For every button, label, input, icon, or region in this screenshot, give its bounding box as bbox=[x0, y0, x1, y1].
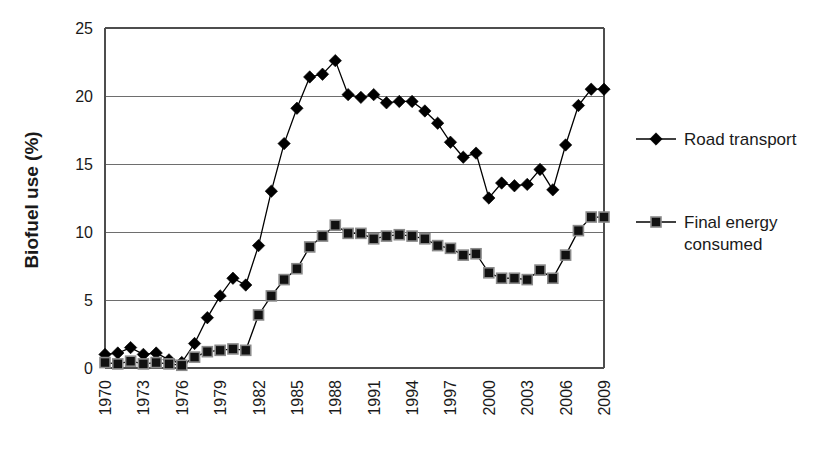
data-point-square bbox=[522, 275, 532, 285]
data-point-square bbox=[190, 352, 200, 362]
data-point-square bbox=[202, 347, 212, 357]
data-point-square bbox=[151, 358, 161, 368]
data-point-square bbox=[356, 228, 366, 238]
data-point-square bbox=[509, 273, 519, 283]
y-tick-label: 5 bbox=[84, 292, 93, 309]
x-tick-label: 1988 bbox=[327, 380, 344, 416]
biofuel-use-line-chart: Biofuel use (%) 0510152025 1970197319761… bbox=[0, 0, 827, 450]
data-point-square bbox=[100, 358, 110, 368]
data-point-square bbox=[497, 273, 507, 283]
legend-label: Road transport bbox=[684, 130, 797, 149]
data-point-square bbox=[369, 234, 379, 244]
y-axis-title: Biofuel use (%) bbox=[21, 131, 42, 268]
data-point-square bbox=[113, 359, 123, 369]
chart-figure: Biofuel use (%) 0510152025 1970197319761… bbox=[0, 0, 827, 450]
x-tick-label: 2009 bbox=[596, 380, 613, 416]
data-point-square bbox=[535, 265, 545, 275]
data-point-square bbox=[164, 359, 174, 369]
data-point-square bbox=[330, 220, 340, 230]
data-point-square bbox=[279, 275, 289, 285]
data-point-square bbox=[471, 249, 481, 259]
data-point-square bbox=[586, 212, 596, 222]
data-point-square bbox=[266, 291, 276, 301]
data-point-square bbox=[394, 230, 404, 240]
data-point-square bbox=[420, 234, 430, 244]
x-tick-label: 2003 bbox=[519, 380, 536, 416]
data-point-square bbox=[484, 268, 494, 278]
data-point-square bbox=[651, 217, 661, 227]
data-point-square bbox=[318, 231, 328, 241]
x-tick-label: 1973 bbox=[135, 380, 152, 416]
y-axis-title-text: Biofuel use (%) bbox=[21, 131, 42, 268]
data-point-square bbox=[407, 231, 417, 241]
data-point-square bbox=[241, 345, 251, 355]
y-tick-label: 10 bbox=[75, 224, 93, 241]
data-point-square bbox=[548, 273, 558, 283]
data-point-square bbox=[228, 344, 238, 354]
y-tick-label: 20 bbox=[75, 88, 93, 105]
data-point-square bbox=[138, 359, 148, 369]
data-point-square bbox=[215, 345, 225, 355]
legend-label: Final energy bbox=[684, 213, 778, 232]
data-point-square bbox=[445, 243, 455, 253]
y-tick-label: 0 bbox=[84, 360, 93, 377]
x-tick-label: 2000 bbox=[481, 380, 498, 416]
legend-label: consumed bbox=[684, 235, 762, 254]
y-tick-label: 25 bbox=[75, 20, 93, 37]
x-tick-label: 1985 bbox=[289, 380, 306, 416]
x-tick-label: 2006 bbox=[558, 380, 575, 416]
x-tick-label: 1997 bbox=[442, 380, 459, 416]
y-tick-label: 15 bbox=[75, 156, 93, 173]
data-point-square bbox=[254, 310, 264, 320]
x-tick-label: 1970 bbox=[97, 380, 114, 416]
x-tick-label: 1994 bbox=[404, 380, 421, 416]
x-tick-label: 1991 bbox=[366, 380, 383, 416]
data-point-square bbox=[292, 264, 302, 274]
x-tick-label: 1976 bbox=[174, 380, 191, 416]
x-tick-label: 1982 bbox=[251, 380, 268, 416]
x-tick-label: 1979 bbox=[212, 380, 229, 416]
data-point-square bbox=[573, 226, 583, 236]
data-point-square bbox=[458, 250, 468, 260]
data-point-square bbox=[126, 356, 136, 366]
data-point-square bbox=[561, 250, 571, 260]
data-point-square bbox=[599, 212, 609, 222]
data-point-square bbox=[343, 228, 353, 238]
data-point-square bbox=[177, 360, 187, 370]
data-point-square bbox=[433, 241, 443, 251]
data-point-square bbox=[305, 242, 315, 252]
data-point-square bbox=[381, 231, 391, 241]
